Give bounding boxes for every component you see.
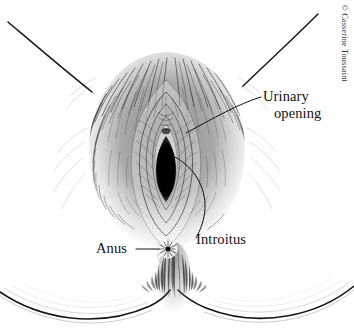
urethral-meatus [162, 128, 171, 134]
copyright-credit: © Casserine Toussaint [340, 5, 349, 95]
label-urinary-line1: Urinary [263, 88, 309, 104]
label-urinary-opening: Urinary opening [263, 88, 321, 122]
label-introitus: Introitus [196, 231, 246, 248]
illustration-canvas [0, 0, 354, 334]
label-anus: Anus [96, 240, 127, 257]
label-urinary-line2: opening [263, 105, 321, 122]
anatomical-figure: Urinary opening Introitus Anus © Casseri… [0, 0, 354, 334]
